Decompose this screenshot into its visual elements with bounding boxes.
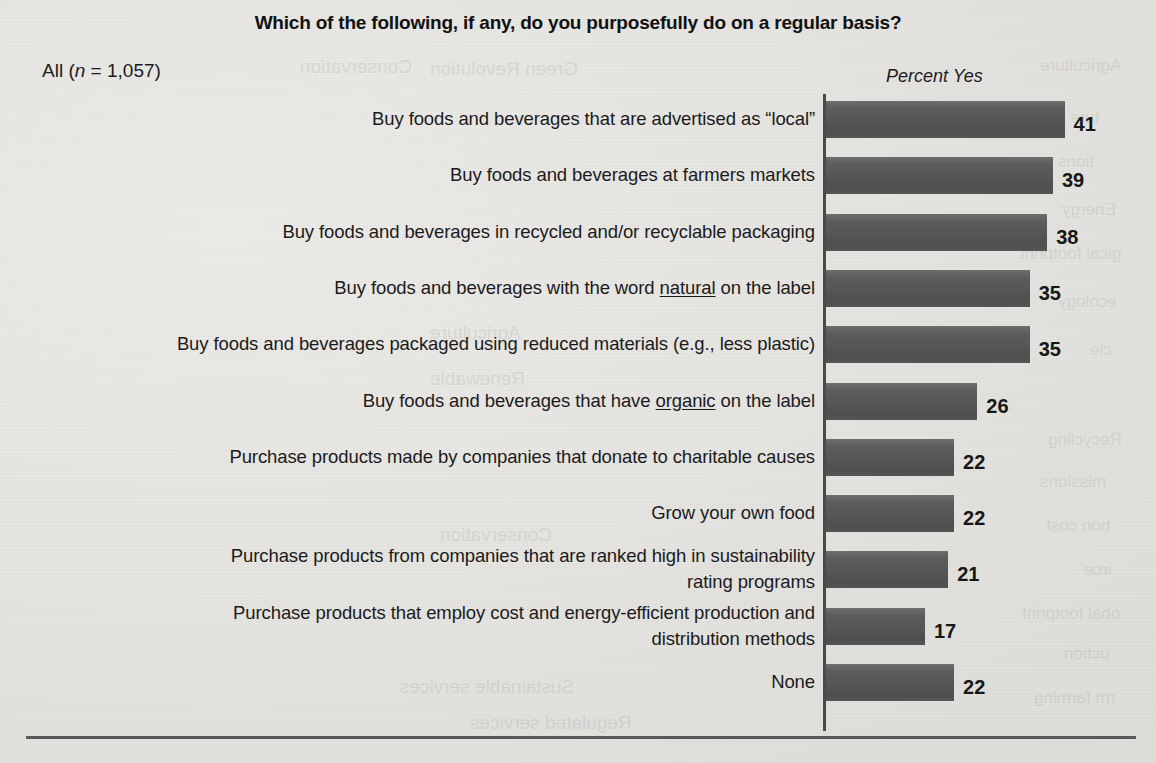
bar: [826, 214, 1047, 251]
bar-value-label: 41: [1074, 113, 1096, 136]
bar-fill: [826, 383, 977, 420]
plot-area: Buy foods and beverages that are adverti…: [0, 94, 1156, 734]
bar-value-label: 22: [963, 676, 985, 699]
bar-fill: [826, 664, 954, 701]
bar-fill: [826, 439, 954, 476]
bar-row: Buy foods and beverages in recycled and/…: [0, 209, 1156, 265]
bar-row: Buy foods and beverages that have organi…: [0, 378, 1156, 434]
bar-fill: [826, 495, 954, 532]
bar-fill: [826, 101, 1065, 138]
bar: [826, 664, 954, 701]
bar-value-label: 35: [1039, 281, 1061, 304]
bar-fill: [826, 551, 948, 588]
bar-fill: [826, 608, 925, 645]
bar-row: Purchase products that employ cost and e…: [0, 603, 1156, 659]
sample-size-label: All (n = 1,057): [42, 60, 161, 82]
bar-row: Purchase products from companies that ar…: [0, 546, 1156, 602]
bar-value-label: 22: [963, 507, 985, 530]
bar-row: Buy foods and beverages with the word na…: [0, 265, 1156, 321]
bar-value-label: 22: [963, 450, 985, 473]
bar-fill: [826, 270, 1030, 307]
bar-category-label: Buy foods and beverages that have organi…: [20, 388, 815, 414]
bar-value-label: 38: [1056, 225, 1078, 248]
bar-category-label: Buy foods and beverages with the word na…: [20, 275, 815, 301]
bar: [826, 101, 1065, 138]
sample-size-n-italic: n: [75, 60, 86, 81]
bar-fill: [826, 157, 1053, 194]
sample-size-prefix: All (: [42, 60, 75, 81]
chart-title: Which of the following, if any, do you p…: [0, 12, 1156, 34]
bar-category-label: None: [20, 669, 815, 695]
bar-value-label: 26: [986, 394, 1008, 417]
footer-rule: [26, 736, 1136, 739]
bar-row: Buy foods and beverages at farmers marke…: [0, 152, 1156, 208]
bar: [826, 383, 977, 420]
bar: [826, 608, 925, 645]
bar-row: Buy foods and beverages packaged using r…: [0, 321, 1156, 377]
bar-value-label: 21: [957, 563, 979, 586]
bar-row: Grow your own food22: [0, 490, 1156, 546]
sample-size-suffix: = 1,057): [85, 60, 161, 81]
bar-category-label: Buy foods and beverages at farmers marke…: [20, 162, 815, 188]
bar-category-label: Purchase products that employ cost and e…: [20, 600, 815, 652]
bar-value-label: 17: [934, 619, 956, 642]
bar-category-label: Grow your own food: [20, 500, 815, 526]
bar-row: Buy foods and beverages that are adverti…: [0, 96, 1156, 152]
bar-chart: Which of the following, if any, do you p…: [0, 0, 1156, 763]
bar-row: None22: [0, 659, 1156, 715]
bar-fill: [826, 214, 1047, 251]
bar-category-label: Purchase products made by companies that…: [20, 444, 815, 470]
bar: [826, 157, 1053, 194]
bar: [826, 439, 954, 476]
bar: [826, 270, 1030, 307]
bar-category-label: Buy foods and beverages packaged using r…: [20, 331, 815, 357]
value-axis-label: Percent Yes: [886, 66, 983, 87]
bar: [826, 495, 954, 532]
bar-value-label: 39: [1062, 169, 1084, 192]
bar: [826, 551, 948, 588]
bar-category-label: Purchase products from companies that ar…: [20, 543, 815, 595]
bar-category-label: Buy foods and beverages that are adverti…: [20, 106, 815, 132]
bar-row: Purchase products made by companies that…: [0, 434, 1156, 490]
bar-category-label: Buy foods and beverages in recycled and/…: [20, 219, 815, 245]
bar-value-label: 35: [1039, 338, 1061, 361]
bar-fill: [826, 326, 1030, 363]
bar: [826, 326, 1030, 363]
